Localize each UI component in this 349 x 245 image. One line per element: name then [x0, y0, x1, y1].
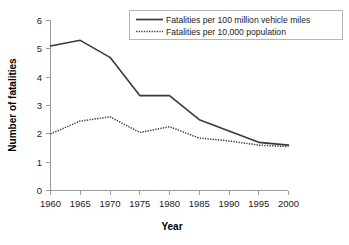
x-tick-label: 1985	[189, 198, 210, 209]
y-tick-label: 6	[37, 15, 42, 26]
chart-legend: Fatalities per 100 million vehicle miles…	[130, 11, 343, 40]
x-tick-label: 1970	[99, 198, 120, 209]
x-axis-ticks	[51, 191, 289, 196]
legend-label-population: Fatalities per 10,000 population	[166, 27, 286, 37]
x-tick-label: 1960	[40, 198, 61, 209]
series-line-population	[51, 117, 289, 147]
legend-label-vehicle-miles: Fatalities per 100 million vehicle miles	[166, 15, 310, 25]
x-tick-label: 1980	[159, 198, 180, 209]
series-line-vehicle-miles	[51, 40, 289, 145]
x-tick-label: 1990	[218, 198, 239, 209]
chart-container: 6 5 4 3 2 1 0 1960 1965 1970 1975 1980	[0, 0, 349, 245]
x-tick-label: 2000	[278, 198, 299, 209]
x-tick-label: 1995	[248, 198, 269, 209]
y-tick-label: 4	[37, 72, 42, 83]
x-tick-label: 1975	[129, 198, 150, 209]
y-axis-title: Number of fatalities	[7, 58, 18, 152]
y-tick-label: 2	[37, 128, 42, 139]
x-axis-title: Year	[161, 221, 182, 232]
line-chart: 6 5 4 3 2 1 0 1960 1965 1970 1975 1980	[0, 0, 349, 245]
y-tick-label: 0	[37, 185, 42, 196]
y-tick-label: 5	[37, 43, 42, 54]
x-tick-label: 1965	[70, 198, 91, 209]
x-axis-tick-labels: 1960 1965 1970 1975 1980 1985 1990 1995 …	[40, 198, 299, 209]
y-tick-label: 3	[37, 100, 42, 111]
y-tick-label: 1	[37, 157, 42, 168]
y-axis-tick-labels: 6 5 4 3 2 1 0	[37, 15, 42, 196]
